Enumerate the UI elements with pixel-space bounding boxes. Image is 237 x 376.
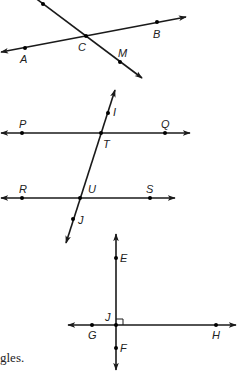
point-b-dot (155, 20, 159, 24)
point-t-dot (99, 131, 103, 135)
label-c: C (78, 42, 86, 53)
label-r: R (19, 184, 27, 195)
point-c-dot (84, 34, 88, 38)
point-dot (41, 2, 45, 6)
point-j2-dot (114, 323, 118, 327)
point-m-dot (118, 60, 122, 64)
label-a: A (20, 54, 27, 65)
label-g: G (88, 330, 97, 341)
point-h-dot (214, 323, 218, 327)
point-p-dot (20, 131, 24, 135)
point-f-dot (114, 346, 118, 350)
label-j2: J (105, 312, 111, 323)
point-i-dot (106, 111, 110, 115)
label-e: E (120, 253, 127, 264)
label-j: J (78, 215, 84, 226)
label-m: M (118, 48, 127, 59)
point-g-dot (90, 323, 94, 327)
point-e-dot (114, 256, 118, 260)
point-j-dot (71, 217, 75, 221)
label-f: F (120, 343, 127, 354)
figure-perpendicular-lines (68, 234, 236, 370)
line-cm (34, 0, 142, 78)
label-t: T (103, 139, 110, 150)
label-i: I (113, 107, 116, 118)
caption-fragment: gles. (0, 351, 24, 364)
label-p: P (19, 119, 26, 130)
point-q-dot (163, 131, 167, 135)
point-r-dot (20, 196, 24, 200)
label-u: U (88, 184, 96, 195)
label-q: Q (161, 119, 170, 130)
point-s-dot (148, 196, 152, 200)
point-u-dot (78, 196, 82, 200)
point-a-dot (23, 46, 27, 50)
figure-parallel-lines (1, 90, 190, 243)
label-h: H (212, 330, 220, 341)
label-b: B (153, 29, 160, 40)
label-s: S (146, 184, 153, 195)
